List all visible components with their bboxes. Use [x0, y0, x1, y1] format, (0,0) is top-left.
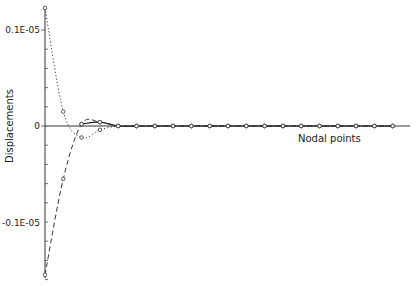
data-point-marker	[80, 122, 84, 126]
data-point-marker	[43, 6, 47, 10]
y-axis-title: Displacements	[4, 89, 15, 163]
data-point-marker	[98, 120, 102, 124]
data-point-marker	[80, 136, 84, 140]
data-point-marker	[135, 124, 139, 128]
data-point-marker	[43, 273, 47, 277]
data-point-marker	[98, 128, 102, 132]
data-point-marker	[354, 124, 358, 128]
series-line-dotted	[45, 8, 393, 138]
data-point-marker	[263, 124, 267, 128]
data-point-marker	[62, 177, 66, 181]
data-point-marker	[318, 124, 322, 128]
data-point-marker	[171, 124, 175, 128]
x-axis-title: Nodal points	[298, 133, 361, 144]
data-point-marker	[391, 124, 395, 128]
data-point-marker	[281, 124, 285, 128]
data-point-marker	[226, 124, 230, 128]
data-point-marker	[336, 124, 340, 128]
data-point-marker	[299, 124, 303, 128]
displacement-chart: 0.1E-05 0 -0.1E-05 Displacements Nodal p…	[0, 0, 417, 286]
data-point-marker	[153, 124, 157, 128]
series-line-solid	[82, 122, 393, 126]
ytick-label-zero: 0	[34, 121, 40, 131]
ytick-label-bottom: -0.1E-05	[2, 218, 40, 228]
data-point-marker	[245, 124, 249, 128]
data-point-marker	[190, 124, 194, 128]
ytick-label-top: 0.1E-05	[5, 25, 40, 35]
data-point-marker	[208, 124, 212, 128]
data-point-marker	[62, 110, 66, 114]
data-point-marker	[373, 124, 377, 128]
data-point-marker	[116, 124, 120, 128]
